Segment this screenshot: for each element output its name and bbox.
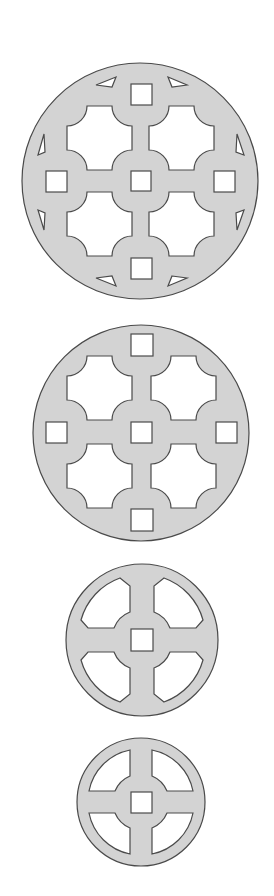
pattern-4 xyxy=(77,738,205,866)
square-cutout-left xyxy=(46,171,67,192)
square-cutout-top xyxy=(131,84,152,105)
pattern-3 xyxy=(66,564,218,716)
square-cutout-right xyxy=(216,422,237,443)
square-cutout-left xyxy=(46,422,67,443)
square-cutout-center xyxy=(131,792,152,813)
square-cutout-right xyxy=(214,171,235,192)
square-cutout-bottom xyxy=(131,258,152,279)
diagram-canvas xyxy=(0,0,274,896)
square-cutout-top xyxy=(131,334,153,356)
square-cutout-center xyxy=(131,171,151,191)
square-cutout-center xyxy=(131,422,152,443)
square-cutout-bottom xyxy=(131,509,153,531)
pattern-1 xyxy=(22,63,258,299)
pattern-2 xyxy=(33,325,249,541)
square-cutout-center xyxy=(131,629,153,651)
